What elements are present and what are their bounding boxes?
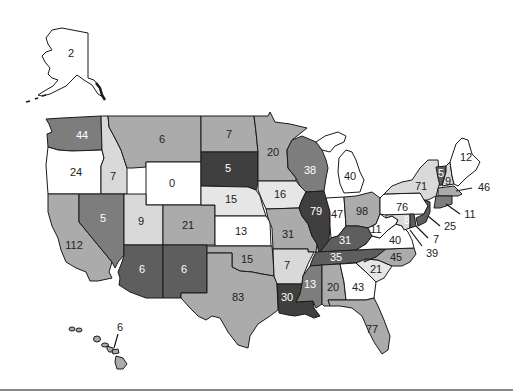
state-delaware	[410, 214, 416, 228]
bottom-divider	[0, 389, 513, 391]
value-label-illinois: 79	[310, 205, 322, 217]
value-label-louisiana: 30	[281, 291, 293, 303]
value-label-massachusetts: 46	[478, 181, 490, 193]
value-label-colorado: 21	[182, 219, 194, 231]
value-label-new-york: 71	[415, 180, 427, 192]
value-label-idaho: 7	[110, 170, 116, 182]
value-label-nevada: 5	[100, 212, 106, 224]
state-wyoming: 0	[146, 162, 201, 205]
state-iowa: 16	[258, 181, 306, 209]
value-label-delaware: 7	[433, 233, 439, 245]
value-label-iowa: 16	[274, 188, 286, 200]
value-label-oklahoma: 15	[241, 253, 253, 265]
value-label-new-hampshire: 9	[445, 175, 451, 187]
value-label-texas: 83	[232, 291, 244, 303]
state-florida: 77	[328, 298, 390, 354]
value-label-virginia: 40	[389, 234, 401, 246]
state-new-mexico: 6	[163, 245, 207, 298]
value-label-new-jersey: 25	[444, 220, 456, 232]
state-oregon: 24	[46, 147, 104, 194]
value-label-ohio: 98	[356, 205, 368, 217]
value-label-minnesota: 20	[267, 146, 279, 158]
value-label-maine: 12	[460, 151, 472, 163]
value-label-north-carolina: 45	[390, 251, 402, 263]
state-pennsylvania: 76	[380, 193, 428, 215]
us-choropleth-map: 2 6 44 24 112 7 5 6	[0, 0, 513, 392]
value-label-alabama: 20	[327, 281, 339, 293]
value-label-dc: 39	[426, 247, 438, 259]
state-washington: 44	[46, 116, 102, 151]
value-label-california: 112	[65, 239, 83, 251]
value-label-utah: 9	[138, 215, 144, 227]
value-label-alaska: 2	[68, 47, 74, 59]
value-label-south-dakota: 5	[225, 162, 231, 174]
value-label-michigan: 40	[344, 170, 356, 182]
value-label-mississippi: 13	[304, 278, 316, 290]
value-label-florida: 77	[366, 323, 378, 335]
value-label-vermont: 5	[438, 167, 444, 179]
state-maine: 12	[450, 138, 480, 186]
value-label-georgia: 43	[352, 281, 364, 293]
value-label-new-mexico: 6	[181, 263, 187, 275]
value-label-washington: 44	[76, 129, 88, 141]
value-label-oregon: 24	[70, 166, 82, 178]
state-kansas: 13	[215, 216, 271, 246]
value-label-wyoming: 0	[169, 177, 175, 189]
value-label-missouri: 31	[282, 228, 294, 240]
value-label-arizona: 6	[139, 263, 145, 275]
value-label-arkansas: 7	[284, 259, 290, 271]
state-colorado: 21	[163, 205, 215, 245]
value-label-west-virginia: 11	[370, 223, 381, 235]
state-hawaii: 6	[69, 321, 127, 369]
state-arizona: 6	[118, 245, 163, 298]
value-label-nebraska: 15	[225, 193, 237, 205]
value-label-maryland: 8	[404, 214, 410, 226]
value-label-kentucky: 31	[339, 234, 351, 246]
value-label-tennessee: 35	[330, 251, 342, 263]
value-label-south-carolina: 21	[370, 263, 382, 275]
state-north-dakota: 7	[201, 116, 258, 152]
value-label-kansas: 13	[235, 225, 247, 237]
value-label-montana: 6	[159, 133, 165, 145]
value-label-hawaii: 6	[117, 321, 123, 333]
value-label-indiana: 47	[331, 208, 343, 220]
state-alaska: 2	[26, 28, 105, 102]
value-label-north-dakota: 7	[226, 128, 232, 140]
value-label-wisconsin: 38	[304, 164, 316, 176]
state-south-dakota: 5	[201, 152, 258, 190]
value-label-pennsylvania: 76	[396, 201, 408, 213]
value-label-connecticut: 11	[464, 208, 475, 220]
